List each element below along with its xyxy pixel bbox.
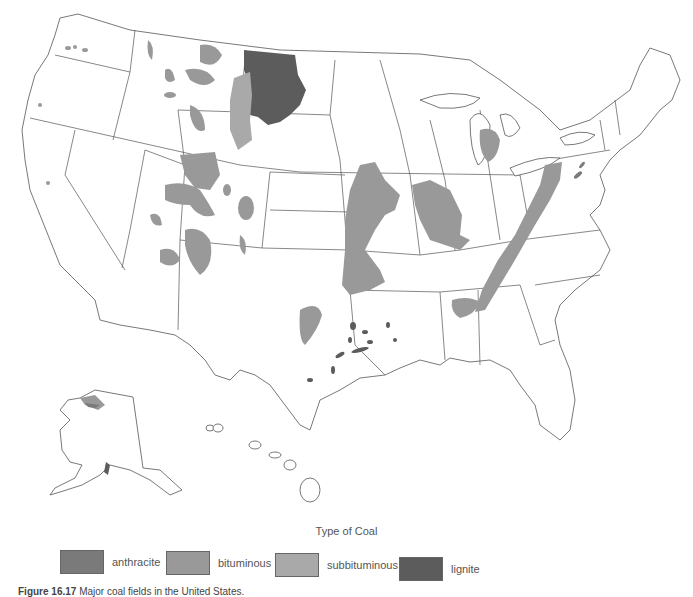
bituminous-swatch — [166, 551, 210, 575]
anthracite-swatch — [60, 550, 104, 574]
figure-number: Figure 16.17 — [18, 586, 76, 597]
caption-text: Major coal fields in the United States. — [79, 586, 244, 597]
legend-label: anthracite — [112, 556, 160, 568]
legend-title: Type of Coal — [0, 525, 693, 537]
legend-item-subbituminous: subbituminous — [275, 553, 398, 577]
legend-item-anthracite: anthracite — [60, 550, 160, 574]
legend-label: bituminous — [218, 557, 271, 569]
alaska-outline — [50, 390, 182, 495]
subbituminous-swatch — [275, 553, 319, 577]
figure-caption: Figure 16.17 Major coal fields in the Un… — [18, 586, 244, 597]
legend-label: subbituminous — [327, 559, 398, 571]
legend-label: lignite — [451, 563, 480, 575]
hawaii-outline — [206, 424, 320, 502]
legend-item-lignite: lignite — [399, 557, 480, 581]
legend: anthracite bituminous subbituminous lign… — [0, 545, 693, 575]
lignite-swatch — [399, 557, 443, 581]
legend-item-bituminous: bituminous — [166, 551, 271, 575]
us-coal-map — [0, 0, 693, 520]
